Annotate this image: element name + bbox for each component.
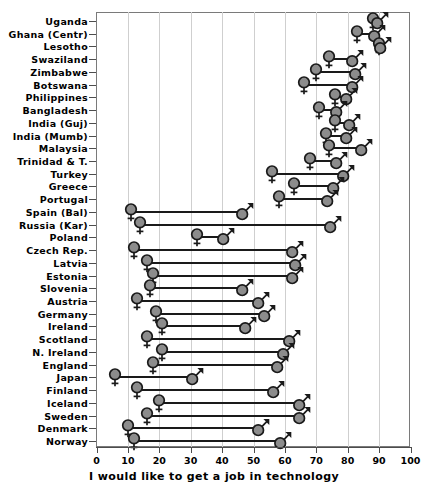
- y-axis-tick: [89, 339, 96, 340]
- dumbbell-connector: [159, 402, 300, 404]
- dumbbell-connector: [153, 275, 294, 277]
- dumbbell-connector: [131, 211, 244, 213]
- dumbbell-connector: [134, 249, 294, 251]
- y-axis-tick: [89, 136, 96, 137]
- y-axis-tick: [89, 288, 96, 289]
- dumbbell-connector: [357, 33, 376, 35]
- y-axis-tick: [89, 21, 96, 22]
- y-axis-tick: [89, 225, 96, 226]
- x-axis-title: I would like to get a job in technology: [0, 470, 428, 483]
- y-axis-tick: [89, 250, 96, 251]
- x-axis-tick: [97, 447, 98, 453]
- y-axis-category-label: Greece: [0, 181, 88, 192]
- gridline: [191, 12, 192, 447]
- x-axis-tick: [285, 447, 286, 453]
- y-axis-tick: [89, 85, 96, 86]
- dumbbell-connector: [379, 45, 382, 47]
- y-axis-tick: [89, 110, 96, 111]
- y-axis-category-label: Japan: [0, 372, 88, 383]
- y-axis-category-label: Ireland: [0, 321, 88, 332]
- y-axis-tick: [89, 212, 96, 213]
- y-axis-tick: [89, 186, 96, 187]
- y-axis-category-label: Austria: [0, 296, 88, 307]
- y-axis-category-label: Germany: [0, 308, 88, 319]
- y-axis-category-label: Botswana: [0, 79, 88, 90]
- dumbbell-connector: [153, 364, 279, 366]
- x-axis-tick-label: 50: [247, 455, 260, 466]
- y-axis-category-label: Iceland: [0, 397, 88, 408]
- dumbbell-connector: [319, 109, 338, 111]
- gridline: [128, 12, 129, 447]
- dumbbell-connector: [134, 440, 282, 442]
- y-axis-tick: [89, 441, 96, 442]
- gridline: [285, 12, 286, 447]
- dumbbell-connector: [137, 389, 275, 391]
- gridline: [379, 12, 380, 447]
- dumbbell-connector: [147, 262, 298, 264]
- y-axis-category-label: Turkey: [0, 168, 88, 179]
- y-axis-tick: [89, 123, 96, 124]
- x-axis-tick: [348, 447, 349, 453]
- y-axis-category-label: Poland: [0, 232, 88, 243]
- dumbbell-connector: [373, 20, 379, 22]
- dumbbell-connector: [329, 58, 354, 60]
- gridline: [159, 12, 160, 447]
- x-axis-tick: [222, 447, 223, 453]
- y-axis-category-label: India (Mumb): [0, 130, 88, 141]
- y-axis-category-label: Philippines: [0, 92, 88, 103]
- x-axis-tick: [128, 447, 129, 453]
- dumbbell-connector: [162, 325, 247, 327]
- y-axis-tick: [89, 365, 96, 366]
- y-axis-category-label: Finland: [0, 385, 88, 396]
- y-axis-tick: [89, 301, 96, 302]
- y-axis-tick: [89, 314, 96, 315]
- y-axis-category-label: Zimbabwe: [0, 66, 88, 77]
- y-axis-tick: [89, 403, 96, 404]
- x-axis-tick: [379, 447, 380, 453]
- x-axis-tick: [411, 447, 412, 453]
- y-axis-tick: [89, 416, 96, 417]
- dumbbell-connector: [304, 84, 354, 86]
- y-axis-tick: [89, 174, 96, 175]
- dumbbell-connector: [115, 376, 194, 378]
- x-axis-tick-label: 60: [278, 455, 291, 466]
- dumbbell-connector: [335, 122, 351, 124]
- y-axis-tick: [89, 161, 96, 162]
- dumbbell-connector: [294, 185, 335, 187]
- y-axis-tick: [89, 263, 96, 264]
- dumbbell-connector: [272, 173, 344, 175]
- dumbbell-connector: [335, 96, 348, 98]
- dumbbell-connector: [326, 135, 348, 137]
- x-axis-tick-label: 70: [310, 455, 323, 466]
- x-axis-tick-label: 90: [372, 455, 385, 466]
- x-axis-tick: [159, 447, 160, 453]
- y-axis-tick: [89, 46, 96, 47]
- y-axis-category-label: Estonia: [0, 270, 88, 281]
- dumbbell-connector: [197, 236, 225, 238]
- dumbbell-connector: [316, 71, 357, 73]
- y-axis-category-label: England: [0, 359, 88, 370]
- y-axis-category-label: Bangladesh: [0, 105, 88, 116]
- y-axis-category-label: Slovenia: [0, 283, 88, 294]
- y-axis-category-label: Czech Rep.: [0, 245, 88, 256]
- x-axis-tick-label: 40: [215, 455, 228, 466]
- y-axis-category-label: N. Ireland: [0, 346, 88, 357]
- x-axis-tick: [191, 447, 192, 453]
- x-axis-tick: [254, 447, 255, 453]
- y-axis-tick: [89, 428, 96, 429]
- y-axis-tick: [89, 148, 96, 149]
- gridline: [316, 12, 317, 447]
- y-axis-category-label: Portugal: [0, 194, 88, 205]
- y-axis-tick: [89, 377, 96, 378]
- y-axis-category-label: Scotland: [0, 334, 88, 345]
- dumbbell-connector: [137, 300, 259, 302]
- y-axis-category-label: Russia (Kar): [0, 219, 88, 230]
- dumbbell-connector: [310, 160, 338, 162]
- y-axis-tick: [89, 326, 96, 327]
- y-axis-tick: [89, 59, 96, 60]
- dumbbell-connector: [279, 198, 329, 200]
- dumbbell-connector: [329, 147, 364, 149]
- dumbbell-connector: [147, 415, 301, 417]
- dumbbell-connector: [150, 287, 244, 289]
- x-axis-tick-label: 0: [93, 455, 100, 466]
